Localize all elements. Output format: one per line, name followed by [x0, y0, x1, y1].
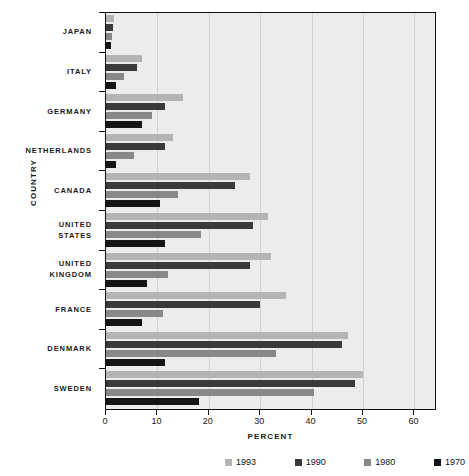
bar-1993-germany	[106, 94, 183, 101]
legend-item-1993: 1993	[225, 457, 256, 467]
bar-1990-united-states	[106, 222, 253, 229]
bar-1990-denmark	[106, 341, 342, 348]
chart-legend: 1993199019801970	[225, 455, 465, 469]
bar-1980-france	[106, 310, 163, 317]
y-axis-label: CANADA	[0, 185, 92, 196]
x-axis-tick	[259, 410, 260, 415]
x-axis-tick-label: 20	[188, 416, 228, 426]
x-axis-tick-label: 0	[85, 416, 125, 426]
y-axis-labels: JAPANITALYGERMANYNETHERLANDSCANADAUNITED…	[0, 12, 99, 410]
legend-label: 1980	[375, 457, 395, 467]
bar-1993-united-kingdom	[106, 253, 271, 260]
bar-1993-japan	[106, 15, 114, 22]
bar-1990-italy	[106, 64, 137, 71]
x-axis-tick-label: 60	[393, 416, 433, 426]
y-axis-label: UNITEDKINGDOM	[0, 258, 92, 280]
bar-1970-sweden	[106, 398, 199, 405]
x-axis-tick-label: 10	[136, 416, 176, 426]
y-axis-label: ITALY	[0, 66, 92, 77]
bar-1990-sweden	[106, 380, 355, 387]
bar-1980-denmark	[106, 350, 276, 357]
bar-1970-united-states	[106, 240, 165, 247]
bar-groups	[106, 13, 435, 409]
bar-1993-canada	[106, 173, 250, 180]
legend-label: 1970	[445, 457, 465, 467]
bar-1990-netherlands	[106, 143, 165, 150]
x-axis-tick	[208, 410, 209, 415]
bar-1970-denmark	[106, 359, 165, 366]
x-axis-tick-labels: 0102030405060	[0, 416, 469, 430]
chart-figure: COUNTRY JAPANITALYGERMANYNETHERLANDSCANA…	[0, 0, 469, 476]
bar-1980-italy	[106, 73, 124, 80]
bar-group	[106, 132, 435, 172]
bar-group	[106, 211, 435, 251]
legend-swatch-icon	[225, 459, 232, 466]
bar-1980-united-kingdom	[106, 271, 168, 278]
bar-1993-netherlands	[106, 134, 173, 141]
bar-1970-canada	[106, 200, 160, 207]
plot-area	[105, 12, 436, 410]
bar-1993-italy	[106, 55, 142, 62]
x-axis-tick	[156, 410, 157, 415]
bar-1980-netherlands	[106, 152, 134, 159]
bar-group	[106, 171, 435, 211]
legend-label: 1990	[306, 457, 326, 467]
bar-group	[106, 53, 435, 93]
bar-group	[106, 330, 435, 370]
legend-swatch-icon	[434, 459, 441, 466]
bar-group	[106, 13, 435, 53]
x-axis-tick	[362, 410, 363, 415]
legend-item-1980: 1980	[364, 457, 395, 467]
bar-1993-united-states	[106, 213, 268, 220]
bar-group	[106, 251, 435, 291]
bar-group	[106, 290, 435, 330]
legend-swatch-icon	[364, 459, 371, 466]
x-axis-tick	[311, 410, 312, 415]
y-axis-label: SWEDEN	[0, 383, 92, 394]
x-axis-tick	[413, 410, 414, 415]
bar-1980-sweden	[106, 389, 314, 396]
bar-1990-united-kingdom	[106, 262, 250, 269]
bar-1990-canada	[106, 182, 235, 189]
bar-1970-japan	[106, 42, 111, 49]
y-axis-label: DENMARK	[0, 343, 92, 354]
bar-1970-germany	[106, 121, 142, 128]
legend-swatch-icon	[295, 459, 302, 466]
bar-1993-france	[106, 292, 286, 299]
bar-1980-japan	[106, 33, 112, 40]
x-axis-tick	[105, 410, 106, 415]
y-axis-label: NETHERLANDS	[0, 145, 92, 156]
bar-1980-canada	[106, 191, 178, 198]
y-axis-label: UNITEDSTATES	[0, 219, 92, 241]
x-axis-tick-label: 50	[342, 416, 382, 426]
y-axis-label: JAPAN	[0, 26, 92, 37]
x-axis-tick-label: 40	[291, 416, 331, 426]
bar-1980-united-states	[106, 231, 201, 238]
bar-1970-netherlands	[106, 161, 116, 168]
bar-1993-denmark	[106, 332, 348, 339]
y-axis-label: GERMANY	[0, 106, 92, 117]
bar-group	[106, 92, 435, 132]
legend-label: 1993	[236, 457, 256, 467]
bar-1970-italy	[106, 82, 116, 89]
legend-item-1990: 1990	[295, 457, 326, 467]
bar-1990-germany	[106, 103, 165, 110]
bar-1970-france	[106, 319, 142, 326]
bar-1990-france	[106, 301, 260, 308]
bar-1990-japan	[106, 24, 113, 31]
x-axis-tick-label: 30	[239, 416, 279, 426]
x-axis-title: PERCENT	[105, 432, 436, 441]
y-axis-label: FRANCE	[0, 304, 92, 315]
bar-1970-united-kingdom	[106, 280, 147, 287]
bar-1980-germany	[106, 112, 152, 119]
bar-1993-sweden	[106, 371, 363, 378]
bar-group	[106, 369, 435, 409]
legend-item-1970: 1970	[434, 457, 465, 467]
